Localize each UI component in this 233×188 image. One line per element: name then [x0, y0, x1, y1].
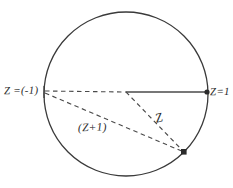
geometry-figure: Z =(-1) Z=1 (Z+1) Z [0, 0, 233, 188]
z-point-marker [181, 149, 187, 155]
radius-dashed-to-z [126, 92, 184, 152]
label-right-point: Z=1 [210, 86, 230, 97]
diameter-dashed-left-to-center [45, 91, 126, 92]
label-left-point: Z =(-1) [4, 85, 38, 97]
right-point-marker [204, 89, 209, 94]
label-chord-z-plus-1: (Z+1) [78, 122, 107, 134]
